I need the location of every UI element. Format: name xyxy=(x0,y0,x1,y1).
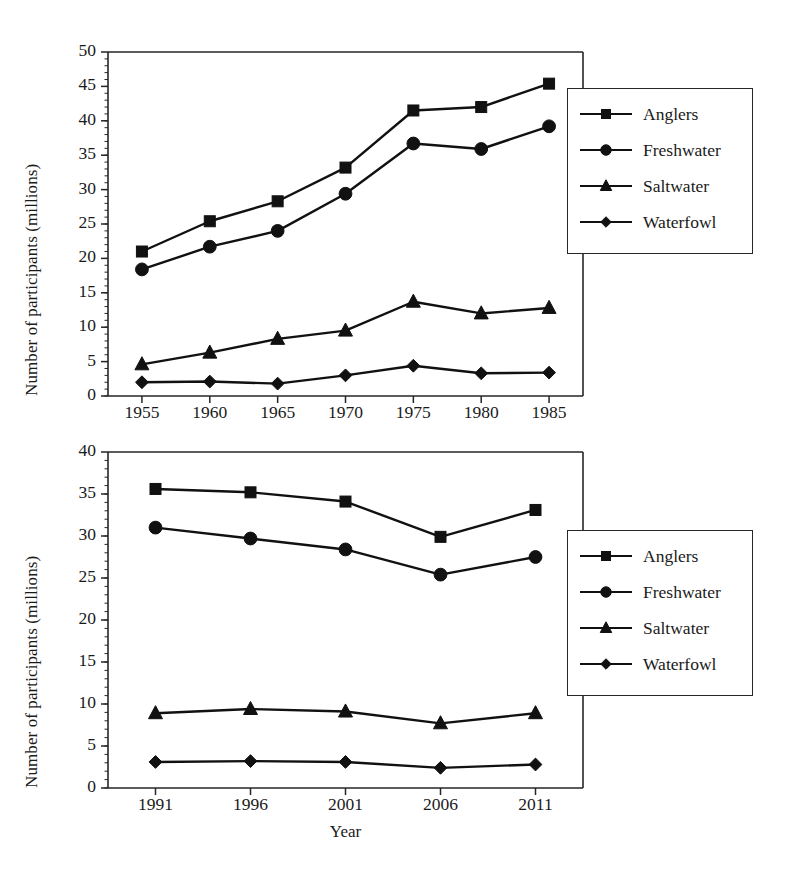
y-tick-label: 10 xyxy=(79,315,97,336)
data-point-freshwater xyxy=(339,187,352,200)
data-point-anglers xyxy=(136,246,147,257)
legend-item-saltwater[interactable]: Saltwater xyxy=(568,610,752,646)
legend-label: Waterfowl xyxy=(634,212,716,233)
y-tick-label: 20 xyxy=(79,246,97,267)
data-point-waterfowl xyxy=(407,359,420,372)
x-tick-label: 2006 xyxy=(401,794,481,815)
legend-label: Waterfowl xyxy=(634,654,716,675)
data-point-freshwater xyxy=(244,532,257,545)
triangle-marker-icon xyxy=(578,618,634,638)
x-tick-label: 2011 xyxy=(496,794,576,815)
data-point-anglers xyxy=(530,504,541,515)
data-point-waterfowl xyxy=(339,369,352,382)
legend-label: Anglers xyxy=(634,104,698,125)
data-point-waterfowl xyxy=(244,755,257,768)
x-tick-label: 1991 xyxy=(116,794,196,815)
y-tick-label: 0 xyxy=(87,384,96,405)
data-point-freshwater xyxy=(339,543,352,556)
legend-item-anglers[interactable]: Anglers xyxy=(568,96,752,132)
y-tick-label: 5 xyxy=(87,734,96,755)
data-point-freshwater xyxy=(149,521,162,534)
data-point-freshwater xyxy=(434,568,447,581)
data-point-freshwater xyxy=(136,263,149,276)
y-tick-label: 5 xyxy=(87,350,96,371)
data-point-anglers xyxy=(150,483,161,494)
y-tick-label: 25 xyxy=(79,566,97,587)
diamond-marker-icon xyxy=(578,654,634,674)
legend-item-anglers[interactable]: Anglers xyxy=(568,538,752,574)
data-point-waterfowl xyxy=(529,758,542,771)
data-point-waterfowl xyxy=(475,367,488,380)
legend-item-freshwater[interactable]: Freshwater xyxy=(568,574,752,610)
data-point-anglers xyxy=(272,196,283,207)
y-tick-label: 40 xyxy=(79,440,97,461)
x-tick-label: 1996 xyxy=(211,794,291,815)
data-point-anglers xyxy=(204,216,215,227)
y-tick-label: 15 xyxy=(79,281,97,302)
legend-label: Freshwater xyxy=(634,140,721,161)
data-point-saltwater xyxy=(529,706,543,719)
x-tick-label: 1985 xyxy=(509,402,589,423)
legend-label: Anglers xyxy=(634,546,698,567)
y-tick-label: 45 xyxy=(79,74,97,95)
y-tick-label: 35 xyxy=(79,482,97,503)
legend-label: Saltwater xyxy=(634,176,709,197)
data-point-waterfowl xyxy=(271,377,284,390)
data-point-freshwater xyxy=(543,120,556,133)
legend-bottom: AnglersFreshwaterSaltwaterWaterfowl xyxy=(567,530,753,696)
square-marker-icon xyxy=(578,104,634,124)
legend-item-saltwater[interactable]: Saltwater xyxy=(568,168,752,204)
triangle-marker-icon xyxy=(578,176,634,196)
circle-marker-icon xyxy=(578,140,634,160)
y-tick-label: 15 xyxy=(79,650,97,671)
data-point-anglers xyxy=(476,102,487,113)
y-tick-label: 30 xyxy=(79,178,97,199)
data-point-freshwater xyxy=(529,551,542,564)
data-point-saltwater xyxy=(406,294,420,307)
data-point-waterfowl xyxy=(136,376,149,389)
data-point-waterfowl xyxy=(543,366,556,379)
figure-two-panel-line-chart: Number of participants (millions) Angler… xyxy=(0,0,793,880)
y-tick-label: 20 xyxy=(79,608,97,629)
y-tick-label: 40 xyxy=(79,109,97,130)
legend-label: Freshwater xyxy=(634,582,721,603)
data-point-freshwater xyxy=(407,137,420,150)
data-point-waterfowl xyxy=(149,756,162,769)
y-tick-label: 50 xyxy=(79,40,97,61)
y-tick-label: 35 xyxy=(79,143,97,164)
data-point-waterfowl xyxy=(339,756,352,769)
data-point-waterfowl xyxy=(203,375,216,388)
chart-panel-bottom: Number of participants (millions) Angler… xyxy=(0,432,793,880)
data-point-anglers xyxy=(408,105,419,116)
legend-item-freshwater[interactable]: Freshwater xyxy=(568,132,752,168)
y-tick-label: 25 xyxy=(79,212,97,233)
data-point-anglers xyxy=(340,496,351,507)
data-point-freshwater xyxy=(475,143,488,156)
legend-item-waterfowl[interactable]: Waterfowl xyxy=(568,204,752,240)
y-tick-label: 0 xyxy=(87,776,96,797)
legend-label: Saltwater xyxy=(634,618,709,639)
data-point-anglers xyxy=(340,162,351,173)
chart-panel-top: Number of participants (millions) Angler… xyxy=(0,0,793,440)
data-point-freshwater xyxy=(271,224,284,237)
data-point-saltwater xyxy=(542,300,556,313)
x-axis-label: Year xyxy=(108,822,583,842)
diamond-marker-icon xyxy=(578,212,634,232)
y-tick-label: 30 xyxy=(79,524,97,545)
data-point-anglers xyxy=(435,531,446,542)
data-point-anglers xyxy=(245,487,256,498)
legend-item-waterfowl[interactable]: Waterfowl xyxy=(568,646,752,682)
square-marker-icon xyxy=(578,546,634,566)
x-tick-label: 2001 xyxy=(306,794,386,815)
data-point-freshwater xyxy=(203,240,216,253)
y-tick-label: 10 xyxy=(79,692,97,713)
data-point-anglers xyxy=(544,78,555,89)
circle-marker-icon xyxy=(578,582,634,602)
data-point-waterfowl xyxy=(434,761,447,774)
legend-top: AnglersFreshwaterSaltwaterWaterfowl xyxy=(567,88,753,254)
